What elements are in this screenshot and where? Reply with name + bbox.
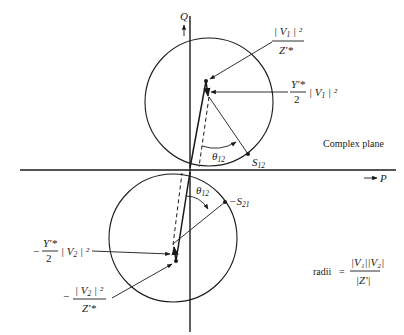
lower-vector-main — [176, 172, 190, 261]
lower-radius — [173, 202, 225, 244]
svg-text:| V2 | ²: | V2 | ² — [75, 284, 104, 298]
svg-text:−: − — [63, 290, 69, 302]
s21-label: −S21 — [229, 195, 249, 209]
upper-angle-label: θ12 — [212, 150, 225, 164]
lower-angle-label: θ12 — [196, 184, 209, 198]
lower-vector-offset — [174, 247, 176, 261]
svg-text:=: = — [339, 266, 345, 277]
svg-text:| V1 | ²: | V1 | ² — [309, 86, 338, 100]
svg-text:Z'*: Z'* — [279, 44, 293, 56]
lower-circle — [109, 174, 237, 302]
upper-center-label: | V1 | ² Z'* — [272, 25, 304, 56]
power-circle-diagram: Q P Complex plane | V1 | ² Z'* Y'* 2 | V… — [0, 0, 404, 335]
svg-text:|Z'|: |Z'| — [356, 274, 371, 286]
p-axis-label: P — [379, 172, 387, 184]
s21-point — [223, 200, 227, 204]
svg-text:2: 2 — [46, 252, 52, 264]
upper-vector-offset — [206, 81, 208, 96]
lower-offset-leader — [92, 251, 170, 254]
upper-angle-arc — [202, 142, 236, 148]
s12-label: S12 — [252, 156, 265, 170]
upper-offset-label: Y'* 2 | V1 | ² — [290, 78, 338, 105]
upper-circle — [145, 38, 273, 166]
svg-text:radii: radii — [313, 266, 332, 277]
svg-text:| V2 | ²: | V2 | ² — [61, 245, 90, 259]
svg-text:Y'*: Y'* — [43, 237, 57, 249]
svg-text:Y'*: Y'* — [291, 78, 305, 90]
s12-point — [246, 152, 250, 156]
svg-text:Z'*: Z'* — [82, 302, 96, 314]
plane-label: Complex plane — [323, 138, 384, 149]
svg-text:| V1 | ²: | V1 | ² — [274, 25, 303, 39]
lower-center-leader — [112, 264, 172, 298]
lower-center-label: − | V2 | ² Z'* — [63, 284, 106, 314]
upper-center-leader — [210, 42, 272, 79]
svg-text:2: 2 — [294, 93, 300, 105]
svg-text:|V₁||V₂|: |V₁||V₂| — [351, 256, 384, 268]
lower-offset-label: − Y'* 2 | V2 | ² — [33, 237, 90, 264]
q-axis-label: Q — [180, 10, 188, 22]
upper-vector-main — [190, 81, 206, 168]
svg-text:−: − — [33, 245, 39, 257]
radii-formula: radii = |V₁||V₂| |Z'| — [313, 256, 384, 286]
